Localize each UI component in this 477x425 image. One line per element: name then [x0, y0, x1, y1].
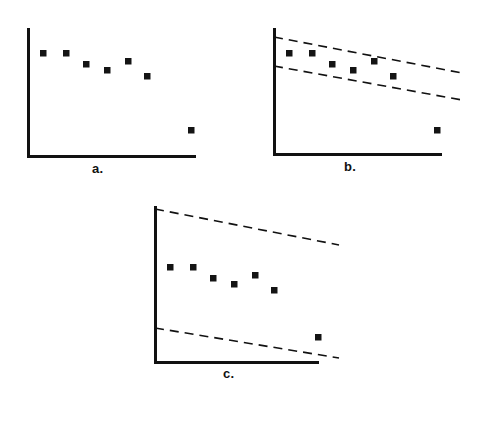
panel-c: c. [147, 200, 352, 385]
panel-c-upper-limit-line [155, 209, 339, 245]
data-point [144, 73, 151, 80]
data-point [188, 127, 195, 134]
panel-a-plot [20, 22, 210, 167]
data-point [190, 264, 197, 271]
panel-b-upper-limit-line [274, 37, 462, 73]
panel-b-data-series [286, 50, 441, 134]
panel-a: a. [20, 22, 210, 167]
data-point [286, 50, 293, 57]
data-point [309, 50, 316, 57]
panel-b-label: b. [344, 160, 356, 173]
data-point [210, 275, 217, 282]
figure-root: a. b. [0, 0, 477, 425]
data-point [167, 264, 174, 271]
data-point [40, 50, 47, 57]
data-point [271, 287, 278, 294]
panel-a-label: a. [92, 162, 103, 175]
data-point [315, 334, 322, 341]
panel-c-lower-limit-line [155, 328, 339, 358]
panel-c-label: c. [223, 367, 234, 380]
data-point [350, 67, 357, 74]
data-point [252, 272, 259, 279]
panel-b-plot [266, 22, 471, 167]
panel-b-lower-limit-line [274, 66, 462, 100]
panel-b: b. [266, 22, 466, 167]
data-point [83, 61, 90, 68]
data-point [231, 281, 238, 288]
data-point [329, 61, 336, 68]
panel-a-data-series [40, 50, 195, 134]
panel-c-plot [147, 200, 352, 380]
data-point [63, 50, 70, 57]
data-point [371, 58, 378, 65]
panel-c-data-series [167, 264, 322, 341]
data-point [104, 67, 111, 74]
data-point [390, 73, 397, 80]
data-point [434, 127, 441, 134]
data-point [125, 58, 132, 65]
